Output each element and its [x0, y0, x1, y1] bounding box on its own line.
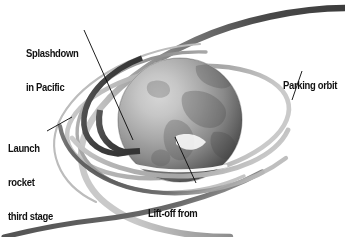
label-parking-line1: Parking orbit — [283, 80, 337, 91]
earth-globe — [118, 58, 242, 182]
label-liftoff-line1: Lift-off from — [148, 208, 260, 219]
diagram-canvas: Splashdown in Pacific Launch rocket thir… — [0, 0, 345, 237]
label-liftoff: Lift-off from Cape Canaveral (Kennedy) — [148, 185, 260, 237]
label-splashdown-line2: in Pacific — [26, 82, 79, 93]
label-splashdown-line1: Splashdown — [26, 48, 79, 59]
label-launch-line1: Launch — [8, 143, 68, 154]
label-splashdown: Splashdown in Pacific — [26, 25, 79, 116]
label-launch-line2: rocket — [8, 177, 68, 188]
label-parking-orbit: Parking orbit — [283, 57, 337, 114]
label-launch: Launch rocket third stage reignites to b… — [8, 120, 68, 237]
label-launch-line3: third stage — [8, 211, 68, 222]
